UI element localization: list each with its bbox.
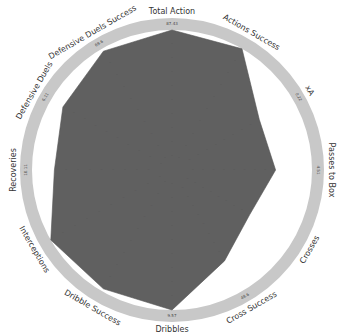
- tick-label: ··: [212, 168, 214, 172]
- tick-label: ··: [202, 168, 204, 172]
- tick-label: ··: [77, 168, 79, 172]
- tick-label: ··: [127, 143, 129, 147]
- tick-label: ··: [192, 168, 194, 172]
- tick-label: ··: [159, 175, 161, 179]
- tick-label: ··: [227, 71, 229, 75]
- tick-label: ··: [194, 181, 196, 185]
- axis-label-0: Total Action: [148, 7, 195, 16]
- tick-label: ··: [171, 224, 173, 228]
- tick-label: ··: [223, 168, 225, 172]
- tick-label: ··: [150, 204, 152, 208]
- ring-value: 4.51: [316, 166, 321, 175]
- tick-label: ··: [254, 168, 256, 172]
- tick-label: ··: [109, 275, 111, 279]
- tick-label: ··: [192, 132, 194, 136]
- tick-label: ··: [116, 73, 118, 77]
- tick-label: ··: [199, 119, 201, 123]
- axis-label-9: Recoveries: [9, 148, 18, 192]
- tick-label: ··: [124, 168, 126, 172]
- tick-label: ··: [241, 128, 243, 132]
- tick-label: ··: [197, 153, 199, 157]
- tick-label: ··: [171, 252, 173, 256]
- tick-label: ··: [116, 263, 118, 267]
- tick-label: ··: [147, 182, 149, 186]
- tick-label: ··: [144, 120, 146, 124]
- tick-label: ··: [192, 204, 194, 208]
- tick-label: ··: [171, 84, 173, 88]
- tick-label: ··: [95, 124, 97, 128]
- tick-label: ··: [171, 126, 173, 130]
- tick-label: ··: [171, 98, 173, 102]
- axis-label-6: Dribbles: [155, 325, 188, 334]
- tick-label: ··: [250, 123, 252, 127]
- tick-label: ··: [171, 266, 173, 270]
- tick-label: ··: [225, 199, 227, 203]
- tick-label: ··: [208, 232, 210, 236]
- tick-label: ··: [136, 168, 138, 172]
- tick-label: ··: [135, 189, 137, 193]
- tick-label: ··: [223, 138, 225, 142]
- tick-label: ··: [218, 195, 220, 199]
- tick-label: ··: [233, 168, 235, 172]
- tick-label: ··: [197, 213, 199, 217]
- tick-label: ··: [171, 70, 173, 74]
- tick-label: ··: [149, 155, 151, 159]
- tick-label: ··: [171, 210, 173, 214]
- tick-label: ··: [65, 168, 67, 172]
- tick-label: ··: [109, 61, 111, 65]
- tick-label: ··: [171, 154, 173, 158]
- tick-label: ··: [157, 144, 159, 148]
- tick-label: ··: [157, 192, 159, 196]
- tick-label: ··: [171, 42, 173, 46]
- tick-label: ··: [123, 251, 125, 255]
- tick-label: ··: [116, 136, 118, 140]
- tick-label: ··: [98, 210, 100, 214]
- tick-label: ··: [210, 190, 212, 194]
- axis-label-2: xA: [303, 84, 316, 98]
- tick-label: ··: [171, 56, 173, 60]
- tick-label: ··: [137, 108, 139, 112]
- tick-label: ··: [187, 195, 189, 199]
- tick-label: ··: [187, 177, 189, 181]
- tick-label: ··: [100, 168, 102, 172]
- tick-label: ··: [74, 224, 76, 228]
- tick-label: ··: [171, 294, 173, 298]
- tick-label: ··: [213, 241, 215, 245]
- tick-label: ··: [150, 132, 152, 136]
- ring-value: 10.11: [23, 164, 28, 176]
- tick-label: ··: [188, 158, 190, 162]
- tick-label: ··: [234, 59, 236, 63]
- data-polygon: [51, 30, 276, 310]
- tick-label: ··: [147, 168, 149, 172]
- tick-label: ··: [86, 217, 88, 221]
- tick-label: ··: [164, 180, 166, 184]
- tick-label: ··: [123, 85, 125, 89]
- tick-label: ··: [215, 143, 217, 147]
- ring-value: 9.57: [168, 313, 177, 318]
- tick-label: ··: [112, 168, 114, 172]
- tick-label: ··: [218, 250, 220, 254]
- tick-label: ··: [62, 231, 64, 235]
- tick-label: ··: [137, 227, 139, 231]
- tick-label: ··: [206, 107, 208, 111]
- tick-label: ··: [144, 215, 146, 219]
- tick-label: ··: [171, 140, 173, 144]
- tick-label: ··: [171, 238, 173, 242]
- tick-label: ··: [138, 149, 140, 153]
- tick-label: ··: [220, 83, 222, 87]
- tick-label: ··: [122, 196, 124, 200]
- tick-label: ··: [171, 280, 173, 284]
- tick-label: ··: [171, 112, 173, 116]
- axis-label-3: Passes to Box: [327, 143, 336, 198]
- tick-label: ··: [206, 148, 208, 152]
- tick-label: ··: [171, 182, 173, 186]
- tick-label: ··: [160, 162, 162, 166]
- ring-value: 87.43: [166, 21, 178, 26]
- tick-label: ··: [232, 133, 234, 137]
- tick-label: ··: [73, 111, 75, 115]
- tick-label: ··: [110, 203, 112, 207]
- tick-label: ··: [244, 168, 246, 172]
- radar-chart: ········································…: [0, 0, 345, 336]
- tick-label: ··: [233, 204, 235, 208]
- tick-label: ··: [130, 97, 132, 101]
